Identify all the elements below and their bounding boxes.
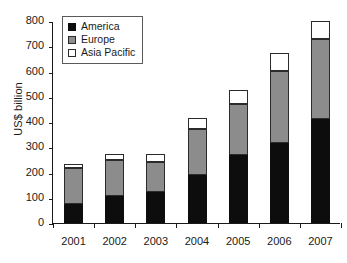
y-tick-mark — [49, 22, 53, 23]
bar-segment-europe — [311, 39, 330, 119]
bar-segment-asiapacific — [229, 90, 248, 104]
legend-swatch-icon — [68, 36, 76, 44]
bar-segment-america — [311, 119, 330, 223]
stacked-bar-chart: US$ billion 0100200300400500600700800 20… — [0, 0, 347, 263]
bar-segment-asiapacific — [311, 21, 330, 39]
legend-label: Asia Pacific — [81, 46, 135, 59]
bar-group — [146, 21, 165, 223]
x-tick-label: 2005 — [216, 235, 260, 247]
bar-segment-america — [270, 143, 289, 223]
bar-segment-america — [188, 175, 207, 223]
y-tick-label: 600 — [26, 65, 44, 77]
x-tick-mark — [94, 223, 95, 228]
x-tick-label: 2007 — [298, 235, 342, 247]
bar-group — [229, 21, 248, 223]
y-axis-title: US$ billion — [12, 54, 24, 164]
x-tick-mark — [135, 223, 136, 228]
x-tick-mark — [176, 223, 177, 228]
y-tick-label: 0 — [38, 216, 44, 228]
x-tick-mark — [53, 223, 54, 228]
x-tick-label: 2006 — [257, 235, 301, 247]
bar-segment-asiapacific — [105, 154, 124, 160]
y-tick-mark — [49, 174, 53, 175]
bar-segment-america — [105, 196, 124, 223]
bar-segment-europe — [64, 168, 83, 204]
x-tick-mark — [218, 223, 219, 228]
x-tick-mark — [259, 223, 260, 228]
chart-legend: AmericaEuropeAsia Pacific — [62, 16, 143, 64]
y-tick-mark — [49, 73, 53, 74]
bar-segment-asiapacific — [270, 53, 289, 71]
legend-item-europe: Europe — [68, 33, 135, 46]
y-tick-label: 400 — [26, 115, 44, 127]
x-tick-label: 2002 — [93, 235, 137, 247]
legend-label: Europe — [81, 33, 115, 46]
bar-segment-europe — [229, 104, 248, 155]
y-tick-label: 300 — [26, 140, 44, 152]
x-tick-label: 2001 — [52, 235, 96, 247]
bar-segment-asiapacific — [146, 154, 165, 162]
y-tick-label: 100 — [26, 191, 44, 203]
bar-segment-america — [146, 192, 165, 223]
legend-item-america: America — [68, 20, 135, 33]
y-tick-label: 200 — [26, 166, 44, 178]
bar-segment-europe — [270, 71, 289, 143]
bar-segment-america — [229, 155, 248, 223]
legend-swatch-icon — [68, 49, 76, 57]
x-tick-mark — [341, 223, 342, 228]
x-tick-label: 2004 — [175, 235, 219, 247]
x-tick-label: 2003 — [134, 235, 178, 247]
legend-swatch-icon — [68, 23, 76, 31]
bar-group — [270, 21, 289, 223]
bar-segment-europe — [188, 129, 207, 175]
legend-item-asiapacific: Asia Pacific — [68, 46, 135, 59]
bar-segment-asiapacific — [64, 164, 83, 168]
y-tick-mark — [49, 98, 53, 99]
y-tick-mark — [49, 47, 53, 48]
bar-segment-europe — [105, 160, 124, 196]
y-tick-mark — [49, 123, 53, 124]
y-tick-mark — [49, 199, 53, 200]
legend-label: America — [81, 20, 120, 33]
bar-segment-america — [64, 204, 83, 223]
y-tick-label: 800 — [26, 14, 44, 26]
bar-segment-asiapacific — [188, 118, 207, 129]
y-tick-label: 500 — [26, 90, 44, 102]
y-tick-label: 700 — [26, 39, 44, 51]
y-tick-mark — [49, 148, 53, 149]
bar-group — [188, 21, 207, 223]
bar-segment-europe — [146, 162, 165, 192]
x-tick-mark — [300, 223, 301, 228]
bar-group — [311, 21, 330, 223]
